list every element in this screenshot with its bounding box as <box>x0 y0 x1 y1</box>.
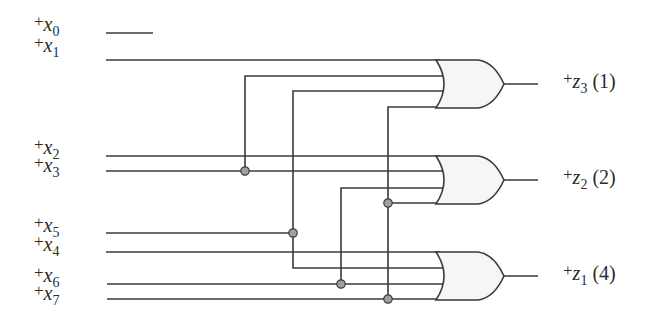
junction-dot <box>337 280 345 288</box>
junction-dot <box>384 295 392 303</box>
output-label-z2: +z2(2) <box>563 165 616 192</box>
input-labels: +x0 +x1 +x2 +x3 +x5 +x4 +x6 +x7 <box>34 12 59 308</box>
or-gate-middle <box>436 156 504 204</box>
wire-x5-to-top <box>293 91 443 233</box>
junction-dot <box>241 167 249 175</box>
junction-dot <box>289 229 297 237</box>
or-gate-top <box>436 60 504 108</box>
wire-x5-to-bottom <box>293 233 443 268</box>
junction-dot <box>384 199 392 207</box>
output-label-z1: +z1(4) <box>563 261 616 288</box>
output-labels: +z3(1) +z2(2) +z1(4) <box>563 69 616 288</box>
or-gate-bottom <box>436 252 504 300</box>
circuit-diagram: +x0 +x1 +x2 +x3 +x5 +x4 +x6 +x7 +z3(1) +… <box>0 0 668 324</box>
output-label-z3: +z3(1) <box>563 69 616 96</box>
gates <box>436 60 504 300</box>
